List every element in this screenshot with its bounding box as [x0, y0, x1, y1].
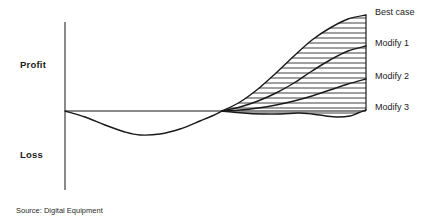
axis-label-loss: Loss [20, 149, 43, 160]
axis-label-profit: Profit [20, 59, 46, 70]
series-label-modify-3: Modify 3 [375, 102, 409, 112]
series-label-modify-2: Modify 2 [375, 71, 409, 81]
series-label-best-case: Best case [375, 7, 415, 17]
source-attribution: Source: Digital Equipment [16, 206, 103, 215]
profit-loss-diagram: Profit Loss Best case Modify 1 Modify 2 … [0, 0, 446, 222]
series-label-modify-1: Modify 1 [375, 38, 409, 48]
curve-investment-loss-phase [65, 111, 222, 135]
scenario-curves [65, 15, 366, 135]
